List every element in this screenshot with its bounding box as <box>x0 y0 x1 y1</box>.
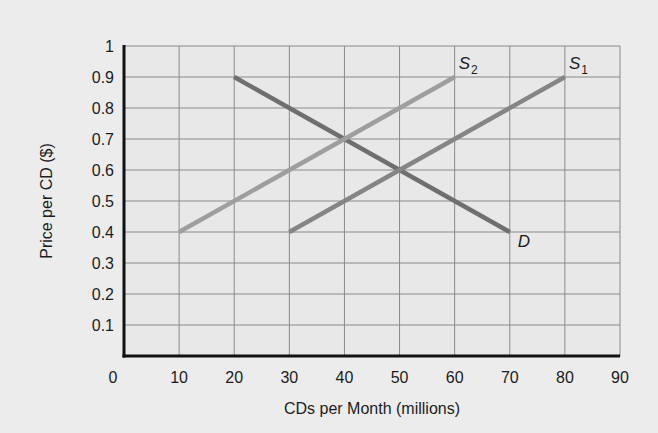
y-tick-label: 0.2 <box>92 286 114 303</box>
y-tick-label: 0.3 <box>92 255 114 272</box>
x-tick-label: 40 <box>336 369 354 386</box>
curve-label-d: D <box>518 232 530 251</box>
x-tick-label: 60 <box>446 369 464 386</box>
x-tick-label: 10 <box>170 369 188 386</box>
y-tick-label: 0.5 <box>92 193 114 210</box>
x-axis-title: CDs per Month (millions) <box>284 400 460 417</box>
x-axis-ticks: 0102030405060708090 <box>109 369 629 386</box>
x-tick-label: 80 <box>556 369 574 386</box>
y-tick-label: 0.9 <box>92 69 114 86</box>
y-tick-label: 1 <box>105 38 114 55</box>
y-tick-label: 0.1 <box>92 317 114 334</box>
x-tick-label: 20 <box>225 369 243 386</box>
x-tick-label: 70 <box>501 369 519 386</box>
y-tick-label: 0.7 <box>92 131 114 148</box>
x-tick-label: 0 <box>109 369 118 386</box>
x-tick-label: 50 <box>391 369 409 386</box>
x-tick-label: 90 <box>611 369 629 386</box>
y-tick-label: 0.6 <box>92 162 114 179</box>
y-tick-label: 0.4 <box>92 224 114 241</box>
y-tick-label: 0.8 <box>92 100 114 117</box>
supply-demand-chart: 0.10.20.30.40.50.60.70.80.91 01020304050… <box>0 0 658 433</box>
y-axis-ticks: 0.10.20.30.40.50.60.70.80.91 <box>92 38 114 334</box>
x-tick-label: 30 <box>280 369 298 386</box>
y-axis-title: Price per CD ($) <box>38 143 55 259</box>
